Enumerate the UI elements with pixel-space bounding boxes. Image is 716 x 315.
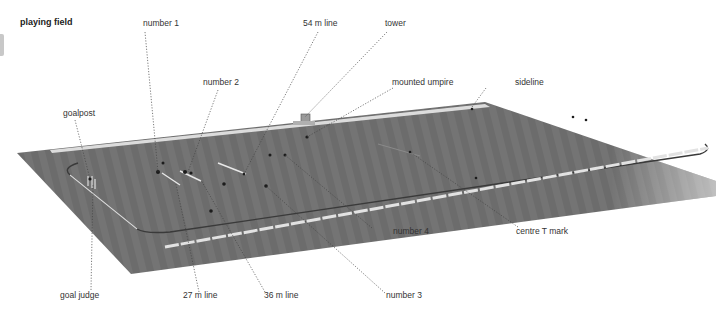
label-sideline: sideline [515, 77, 544, 87]
playing-field-illustration [0, 0, 716, 315]
label-goal-judge: goal judge [60, 290, 99, 300]
label-mounted-umpire: mounted umpire [392, 77, 453, 87]
label-36m-line: 36 m line [264, 290, 299, 300]
label-centre-t-mark: centre T mark [516, 226, 568, 236]
label-number-4: number 4 [393, 226, 429, 236]
label-27m-line: 27 m line [183, 290, 218, 300]
label-number-3: number 3 [386, 290, 422, 300]
label-goalpost: goalpost [63, 108, 95, 118]
label-tower: tower [385, 18, 406, 28]
label-number-2: number 2 [203, 77, 239, 87]
label-54m-line: 54 m line [303, 18, 338, 28]
label-number-1: number 1 [143, 18, 179, 28]
